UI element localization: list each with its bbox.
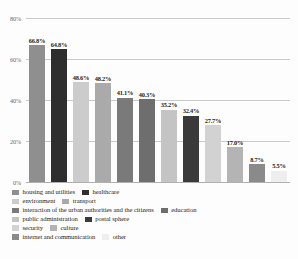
bar-slot: 41.1% [117,18,133,182]
legend-item-label: housing and utilities [23,188,75,196]
legend-item-label: education [171,206,196,214]
y-axis-tick-label: 20% [10,138,21,145]
bar-value-label: 17.0% [227,139,244,146]
bar-value-label: 27.7% [205,117,222,124]
legend-item[interactable]: postal sphere [85,215,129,223]
bar-slot: 35.2% [161,18,177,182]
legend-item-label: postal sphere [95,215,129,223]
bar-slot: 66.8% [29,18,45,182]
bar-value-label: 5.5% [272,162,286,169]
bar [29,45,45,182]
bar [139,99,155,182]
legend-row: housing and utilitieshealthcare [12,188,288,197]
legend-item-label: environment [23,197,56,205]
legend-swatch-icon [12,234,19,240]
bar-value-label: 64.8% [51,41,68,48]
bar [271,171,287,182]
legend-swatch-icon [12,199,19,205]
legend-item[interactable]: public administration [12,215,78,223]
bar-value-label: 48.2% [95,75,112,82]
bar-slot: 48.2% [95,18,111,182]
legend-swatch-icon [12,190,19,196]
bar [227,147,243,182]
legend-swatch-icon [161,208,168,214]
y-axis-tick-label: 0% [13,179,21,186]
legend-row: interaction of the urban authorities and… [12,206,288,215]
bar-value-label: 40.3% [139,91,156,98]
bar-value-label: 32.4% [183,107,200,114]
legend-item-label: other [113,233,126,241]
bar-slot: 17.0% [227,18,243,182]
legend-row: environmenttransport [12,197,288,206]
bar-value-label: 35.2% [161,101,178,108]
bar-slot: 32.4% [183,18,199,182]
plot-area: 66.8%64.8%48.6%48.2%41.1%40.3%35.2%32.4%… [26,18,290,182]
bar-slot: 27.7% [205,18,221,182]
legend-item[interactable]: culture [50,224,78,232]
legend-swatch-icon [82,190,89,196]
legend-swatch-icon [12,208,19,214]
legend-item-label: security [23,224,43,232]
legend-swatch-icon [12,217,19,223]
legend-row: internet and communicationother [12,233,288,242]
y-axis-tick-label: 60% [10,56,21,63]
bar [161,110,177,182]
y-axis-tick-labels: 0%20%40%60%80% [0,18,24,182]
legend-item-label: interaction of the urban authorities and… [23,206,154,214]
bar-series: 66.8%64.8%48.6%48.2%41.1%40.3%35.2%32.4%… [26,18,290,182]
legend-item-label: transport [73,197,96,205]
bar [51,49,67,182]
legend-item-label: public administration [23,215,78,223]
legend-swatch-icon [50,225,57,231]
legend-item[interactable]: transport [62,197,96,205]
y-axis-tick-label: 80% [10,15,21,22]
bar-value-label: 66.8% [29,37,46,44]
legend-row: public administrationpostal sphere [12,215,288,224]
gridline-0 [26,182,290,183]
bar-slot: 64.8% [51,18,67,182]
legend-item[interactable]: housing and utilities [12,188,75,196]
legend-item[interactable]: security [12,224,43,232]
bar-chart: 0%20%40%60%80% 66.8%64.8%48.6%48.2%41.1%… [0,0,298,259]
bar-slot: 40.3% [139,18,155,182]
legend-item[interactable]: interaction of the urban authorities and… [12,206,154,214]
legend-swatch-icon [12,225,19,231]
legend-row: securityculture [12,224,288,233]
bar-slot: 48.6% [73,18,89,182]
bar-value-label: 8.7% [250,156,264,163]
legend-item[interactable]: environment [12,197,55,205]
bar [117,98,133,182]
bar-value-label: 41.1% [117,89,134,96]
legend-swatch-icon [85,217,92,223]
bar [95,83,111,182]
bar-slot: 5.5% [271,18,287,182]
bar [73,82,89,182]
bar-value-label: 48.6% [73,74,90,81]
legend-item-label: internet and communication [23,233,96,241]
legend-swatch-icon [102,234,109,240]
legend-item[interactable]: healthcare [82,188,119,196]
bar-slot: 8.7% [249,18,265,182]
legend-item-label: culture [60,224,78,232]
chart-legend: housing and utilitieshealthcareenvironme… [12,188,288,242]
legend-item-label: healthcare [92,188,119,196]
legend-swatch-icon [62,199,69,205]
legend-item[interactable]: internet and communication [12,233,95,241]
bar [205,125,221,182]
legend-item[interactable]: other [102,233,126,241]
bar [183,116,199,182]
legend-item[interactable]: education [161,206,197,214]
bar [249,164,265,182]
y-axis-tick-label: 40% [10,97,21,104]
